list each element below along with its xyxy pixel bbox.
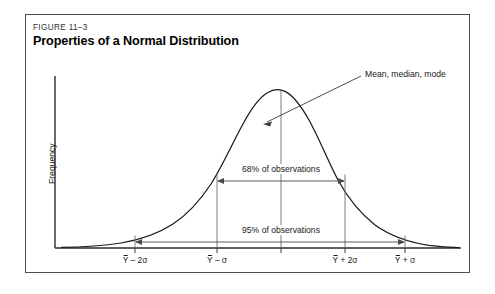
tick-suffix: + 2σ (338, 255, 357, 265)
y-bar-glyph: Y (207, 255, 213, 265)
band-label-68: 68% of observations (239, 164, 323, 174)
tick-suffix: + σ (400, 255, 415, 265)
tick-label-plus-two-sigma: Y + 2σ (333, 255, 358, 265)
tick-suffix: – 2σ (128, 255, 147, 265)
tick-label-minus-two-sigma: Y – 2σ (123, 255, 148, 265)
y-bar-glyph: Y (333, 255, 339, 265)
plot-area: Frequency Y – 2σ Y – σ Y + 2σ Y + σ 68% … (25, 14, 470, 273)
band-95-arrow (135, 239, 405, 245)
tick-label-minus-one-sigma: Y – σ (207, 255, 227, 265)
figure-root: FIGURE 11–3 Properties of a Normal Distr… (0, 0, 495, 294)
tick-label-plus-one-sigma: Y + σ (395, 255, 415, 265)
peak-callout-leader (263, 76, 361, 127)
peak-callout-label: Mean, median, mode (365, 69, 446, 79)
y-bar-glyph: Y (123, 255, 129, 265)
tick-suffix: – σ (213, 255, 227, 265)
y-axis-label: Frequency (47, 143, 57, 184)
band-label-95: 95% of observations (239, 225, 323, 235)
y-bar-glyph: Y (395, 255, 401, 265)
